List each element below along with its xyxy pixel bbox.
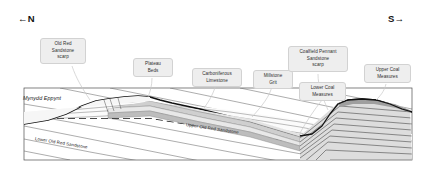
callout-carboniferous-limestone[interactable]: Carboniferous Limestone — [192, 68, 242, 87]
callout-coalfield-pennant-sandstone-scarp[interactable]: Coalfield Pennant Sandstone scarp — [288, 46, 348, 72]
compass-south-label: S→ — [388, 13, 404, 24]
locality-label-mynydd-eppynt: Mynydd Eppynt — [16, 95, 68, 101]
callout-lower-coal-measures[interactable]: Lower Coal Measures — [299, 82, 346, 101]
callout-millstone-grit[interactable]: Millstone Grit — [253, 70, 293, 89]
cross-section-figure: ←N S→ — [0, 0, 428, 181]
callout-plateau-beds[interactable]: Plateau Beds — [133, 58, 173, 77]
cross-section-drawing — [0, 0, 428, 181]
callout-old-red-sandstone-scarp[interactable]: Old Red Sandstone scarp — [40, 38, 86, 64]
compass-north-label: ←N — [18, 13, 35, 24]
callout-upper-coal-measures[interactable]: Upper Coal Measures — [364, 64, 411, 83]
